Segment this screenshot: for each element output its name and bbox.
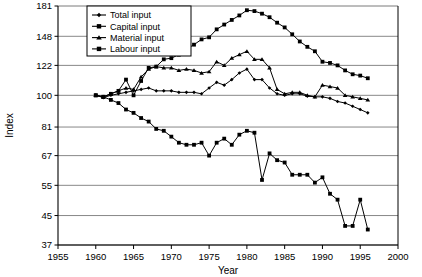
data-point-marker (298, 40, 302, 44)
y-tick-label: 181 (36, 0, 52, 11)
data-point-marker (117, 101, 121, 105)
data-point-marker (147, 86, 151, 90)
legend-marker (97, 47, 101, 51)
data-point-marker (207, 35, 211, 39)
y-tick-label: 100 (36, 90, 52, 101)
data-point-marker (177, 91, 181, 95)
data-point-marker (336, 63, 340, 67)
data-point-marker (124, 86, 129, 90)
data-point-marker (177, 141, 181, 145)
y-tick-label: 148 (36, 31, 52, 42)
data-point-marker (230, 143, 234, 147)
data-point-marker (351, 72, 355, 76)
data-point-marker (139, 116, 143, 120)
data-point-marker (268, 151, 272, 155)
data-point-marker (336, 198, 340, 202)
data-point-marker (170, 89, 174, 93)
data-point-marker (169, 56, 173, 60)
data-point-marker (320, 83, 325, 87)
data-point-marker (185, 143, 189, 147)
data-point-marker (253, 9, 257, 13)
data-point-marker (351, 224, 355, 228)
series-line (96, 95, 368, 229)
data-point-marker (245, 49, 250, 53)
data-point-marker (336, 100, 340, 104)
data-point-marker (275, 21, 279, 25)
data-point-marker (298, 173, 302, 177)
data-point-marker (192, 143, 196, 147)
x-tick-label: 1975 (199, 251, 220, 262)
series-labour-input (94, 93, 370, 231)
data-point-marker (200, 141, 204, 145)
data-point-marker (109, 98, 113, 102)
data-point-marker (237, 14, 241, 18)
data-point-marker (358, 74, 362, 78)
data-point-marker (305, 45, 309, 49)
data-point-marker (260, 178, 264, 182)
data-point-marker (237, 133, 241, 137)
data-point-marker (237, 53, 242, 57)
y-tick-label: 67 (41, 150, 52, 161)
data-point-marker (124, 78, 128, 82)
data-point-marker (132, 111, 136, 115)
data-point-marker (169, 135, 173, 139)
data-point-marker (260, 12, 264, 16)
x-tick-label: 1970 (161, 251, 182, 262)
data-point-marker (230, 18, 234, 22)
data-point-marker (245, 8, 249, 12)
data-point-marker (200, 37, 204, 41)
line-chart: 3745556781100122148181195519601965197019… (0, 0, 422, 277)
data-point-marker (343, 69, 347, 73)
data-point-marker (162, 57, 166, 61)
data-point-marker (222, 23, 226, 27)
data-point-marker (290, 173, 294, 177)
x-tick-label: 1955 (47, 251, 68, 262)
data-point-marker (101, 95, 105, 99)
data-point-marker (147, 120, 151, 124)
data-point-marker (162, 129, 166, 133)
legend-marker (97, 24, 101, 28)
x-tick-label: 1995 (350, 251, 371, 262)
y-tick-label: 37 (41, 239, 52, 250)
legend-label: Capital input (110, 22, 161, 32)
data-point-marker (229, 56, 234, 60)
data-point-marker (366, 76, 370, 80)
data-point-marker (358, 108, 362, 112)
x-tick-label: 1960 (85, 251, 106, 262)
data-point-marker (328, 97, 332, 101)
data-point-marker (343, 101, 347, 105)
data-point-marker (358, 198, 362, 202)
data-point-marker (328, 192, 332, 196)
chart-legend: Total inputCapital inputMaterial inputLa… (87, 6, 191, 56)
data-point-marker (268, 15, 272, 19)
data-point-marker (139, 88, 143, 92)
data-point-marker (290, 32, 294, 36)
data-point-marker (124, 91, 128, 95)
data-point-marker (215, 27, 219, 31)
data-point-marker (366, 111, 370, 115)
x-tick-label: 1985 (274, 251, 295, 262)
data-point-marker (313, 49, 317, 53)
data-point-marker (283, 26, 287, 30)
data-point-marker (283, 161, 287, 165)
y-tick-label: 45 (41, 210, 52, 221)
y-tick-label: 122 (36, 60, 52, 71)
data-point-marker (321, 175, 325, 179)
y-axis-title: Index (4, 113, 15, 137)
data-point-marker (94, 93, 98, 97)
data-point-marker (132, 93, 136, 97)
legend-label: Material input (110, 33, 165, 43)
y-tick-label: 55 (41, 180, 52, 191)
data-point-marker (214, 60, 219, 64)
data-point-marker (215, 141, 219, 145)
x-tick-label: 1980 (236, 251, 257, 262)
data-point-marker (305, 173, 309, 177)
data-point-marker (253, 131, 257, 135)
data-point-marker (313, 181, 317, 185)
data-point-marker (162, 89, 166, 93)
data-point-marker (192, 43, 196, 47)
data-point-marker (124, 108, 128, 112)
x-tick-label: 1965 (123, 251, 144, 262)
legend-label: Total input (110, 10, 152, 20)
x-axis-title: Year (218, 265, 239, 276)
